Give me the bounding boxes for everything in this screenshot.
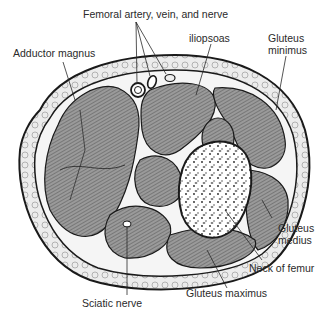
femoral-nerve xyxy=(165,75,175,82)
label-gluteus-minimus: Gluteus minimus xyxy=(268,32,307,56)
label-iliopsoas: iliopsoas xyxy=(189,32,230,44)
label-adductor-magnus: Adductor magnus xyxy=(13,47,95,59)
label-sciatic-nerve: Sciatic nerve xyxy=(82,297,142,309)
label-gluteus-maximus: Gluteus maximus xyxy=(186,287,267,299)
label-femoral-artery-vein-nerve: Femoral artery, vein, and nerve xyxy=(83,8,228,20)
label-neck-of-femur: Neck of femur xyxy=(249,262,314,274)
label-gluteus-medius: Gluteus medius xyxy=(278,222,314,246)
femoral-artery xyxy=(131,83,145,97)
